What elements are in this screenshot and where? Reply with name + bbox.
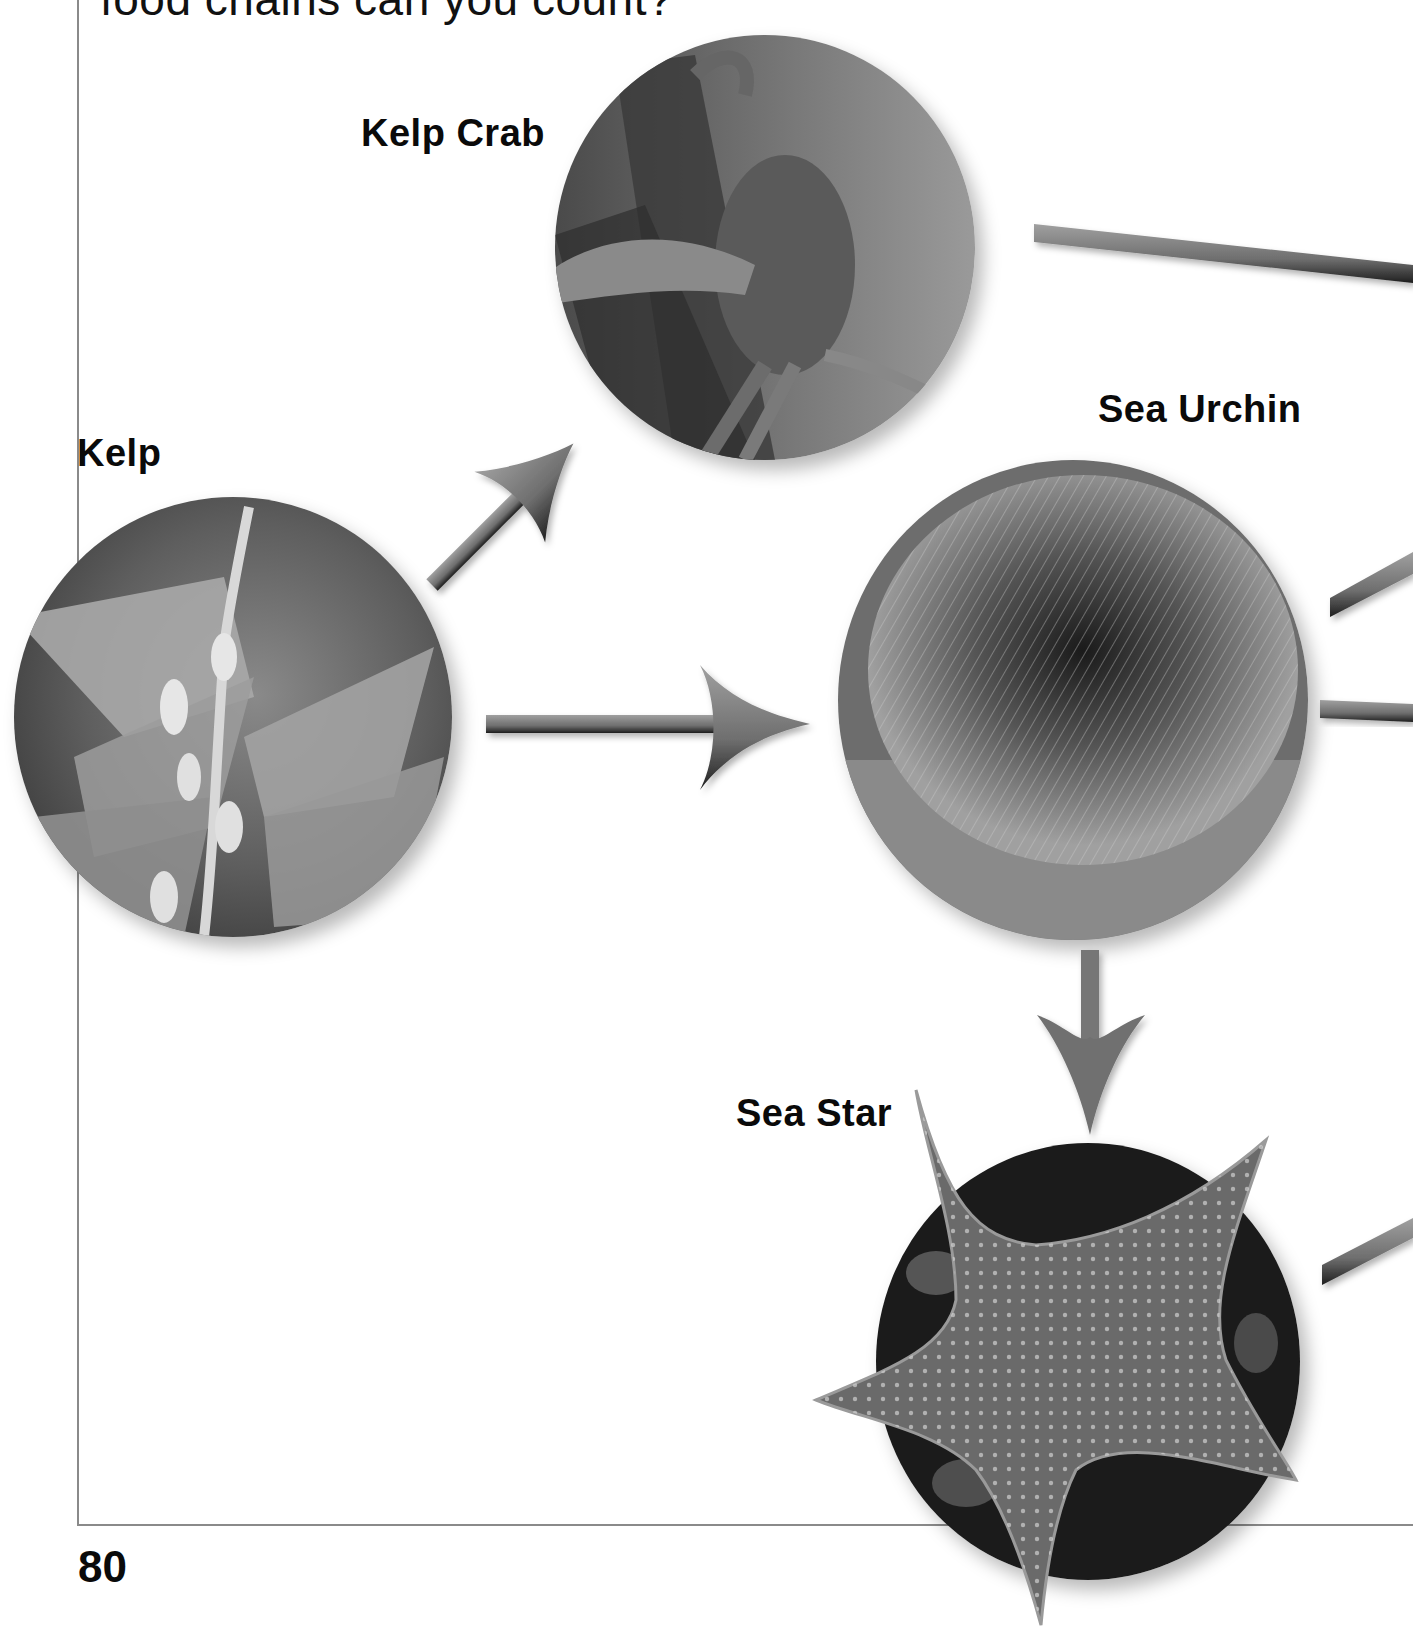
connector-sea-urchin-offpage-lower: [1320, 700, 1413, 722]
kelp-photo-icon: [14, 497, 452, 937]
sea-star-shape-icon: [806, 1070, 1366, 1630]
kelp-crab-node: [555, 35, 975, 460]
connector-sea-urchin-offpage-upper: [1330, 552, 1413, 617]
page-number: 80: [78, 1542, 127, 1592]
connector-kelp-crab-offpage: [1034, 224, 1413, 283]
sea-urchin-node: [838, 460, 1308, 940]
kelp-node: [14, 497, 452, 937]
arrow-kelp-to-kelp-crab: [397, 408, 609, 620]
kelp-crab-photo-icon: [555, 35, 975, 460]
intro-text: food chains can you count?: [100, 0, 673, 26]
kelp-crab-label: Kelp Crab: [361, 112, 545, 155]
kelp-label: Kelp: [77, 432, 161, 475]
sea-urchin-photo-icon: [838, 460, 1308, 940]
arrow-kelp-to-sea-urchin: [486, 665, 810, 790]
sea-urchin-label: Sea Urchin: [1098, 388, 1302, 431]
sea-star-label: Sea Star: [736, 1092, 892, 1135]
